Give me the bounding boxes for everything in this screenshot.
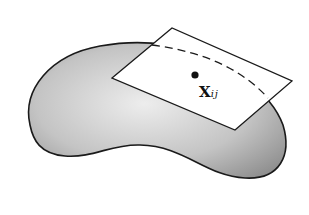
point-marker — [191, 71, 198, 78]
surface-diagram — [0, 0, 309, 215]
point-label-subscript: ij — [211, 88, 219, 99]
point-label: Xij — [199, 82, 219, 101]
point-label-main: X — [199, 83, 211, 101]
